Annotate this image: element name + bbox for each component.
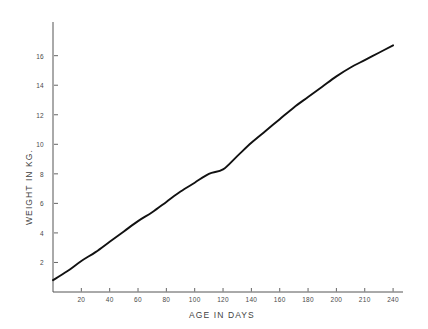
x-tick-label: 210 <box>359 296 371 303</box>
x-tick-label: 80 <box>162 296 170 303</box>
axes-group <box>53 22 403 292</box>
x-tick-label: 200 <box>331 296 343 303</box>
y-tick-label: 10 <box>28 141 44 148</box>
x-tick-label: 20 <box>77 296 85 303</box>
x-tick-label: 240 <box>387 296 399 303</box>
y-tick-label: 2 <box>28 259 44 266</box>
chart-plot-area <box>0 0 428 329</box>
x-tick-label: 40 <box>106 296 114 303</box>
chart-figure: 246810121416 204060801001201401601802002… <box>0 0 428 329</box>
x-axis-ticks <box>81 288 393 292</box>
x-axis-title: AGE IN DAYS <box>189 310 255 320</box>
x-tick-label: 140 <box>246 296 258 303</box>
growth-curve-line <box>53 45 393 280</box>
x-tick-label: 160 <box>274 296 286 303</box>
x-tick-label: 100 <box>189 296 201 303</box>
y-tick-label: 16 <box>28 52 44 59</box>
y-tick-label: 14 <box>28 82 44 89</box>
y-tick-label: 12 <box>28 111 44 118</box>
x-tick-label: 180 <box>302 296 314 303</box>
x-tick-label: 60 <box>134 296 142 303</box>
y-axis-ticks <box>54 56 58 263</box>
x-tick-label: 120 <box>217 296 229 303</box>
y-tick-label: 4 <box>28 229 44 236</box>
data-series-group <box>53 45 393 280</box>
y-axis-title: WEIGHT IN KG. <box>24 149 34 225</box>
